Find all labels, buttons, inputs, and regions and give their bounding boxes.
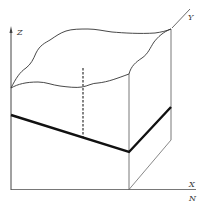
z-axis	[10, 26, 13, 190]
x-axis-label: X	[188, 180, 195, 189]
thick-horizon-line	[11, 107, 171, 152]
top-surface-front-edge	[11, 74, 129, 88]
z-axis-label: Z	[16, 28, 23, 37]
block-diagram: Z X N Y	[0, 0, 206, 213]
n-axis-label: N	[188, 194, 197, 203]
y-axis-label: Y	[188, 13, 194, 22]
top-surface-back-edge	[11, 29, 171, 88]
top-surface-right-edge	[129, 29, 171, 74]
bottom-right-diagonal	[129, 140, 171, 190]
